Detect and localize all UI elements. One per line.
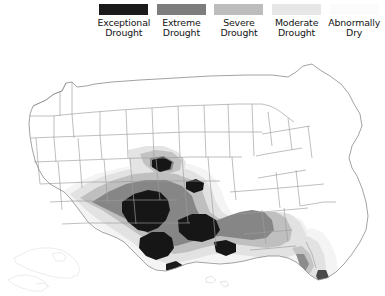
- island-insets: [206, 276, 229, 287]
- legend-label-line2: Drought: [220, 27, 257, 38]
- legend-item-extreme-drought: Extreme Drought: [154, 4, 210, 39]
- legend-swatch-moderate-drought: [272, 4, 321, 15]
- legend-item-exceptional-drought: Exceptional Drought: [96, 4, 152, 39]
- legend-label-line1: Moderate: [275, 17, 318, 28]
- legend-label-moderate-drought: Moderate Drought: [275, 18, 318, 39]
- drought-severity-layers: [62, 146, 338, 288]
- legend-swatch-severe-drought: [214, 4, 263, 15]
- legend-swatch-extreme-drought: [157, 4, 206, 15]
- legend-label-line1: Extreme: [162, 17, 200, 28]
- legend-label-abnormally-dry: Abnormally Dry: [328, 18, 380, 39]
- legend-label-line2: Dry: [346, 27, 362, 38]
- alaska-inset: [8, 248, 80, 291]
- drought-map-figure: Exceptional Drought Extreme Drought Seve…: [0, 0, 385, 296]
- legend-label-severe-drought: Severe Drought: [220, 18, 257, 39]
- map-canvas: [0, 42, 385, 296]
- legend-swatch-exceptional-drought: [99, 4, 148, 15]
- legend-swatch-abnormally-dry: [330, 4, 379, 15]
- legend-item-severe-drought: Severe Drought: [211, 4, 267, 39]
- us-drought-map: [0, 42, 385, 296]
- legend: Exceptional Drought Extreme Drought Seve…: [96, 4, 382, 46]
- legend-label-line2: Drought: [278, 27, 315, 38]
- legend-item-moderate-drought: Moderate Drought: [269, 4, 325, 39]
- legend-label-line1: Abnormally: [328, 17, 380, 28]
- legend-label-exceptional-drought: Exceptional Drought: [97, 18, 150, 39]
- legend-label-line1: Exceptional: [97, 17, 150, 28]
- legend-label-line1: Severe: [223, 17, 255, 28]
- legend-item-abnormally-dry: Abnormally Dry: [326, 4, 382, 39]
- legend-label-extreme-drought: Extreme Drought: [162, 18, 200, 39]
- legend-label-line2: Drought: [163, 27, 200, 38]
- legend-label-line2: Drought: [105, 27, 142, 38]
